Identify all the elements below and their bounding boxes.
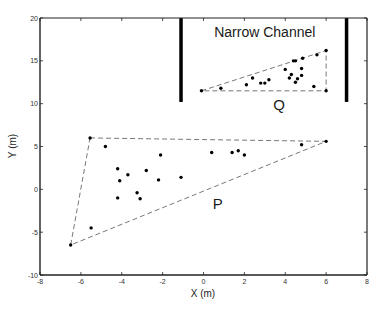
x-axis-label: X (m) xyxy=(191,288,215,299)
point-p xyxy=(159,153,162,156)
x-tick-label: 6 xyxy=(324,278,328,285)
data-points xyxy=(69,49,328,247)
point-p xyxy=(230,151,233,154)
point-q xyxy=(324,49,327,52)
axes xyxy=(40,18,367,275)
scatter-plot: -8-6-4-202468-10-505101520 X (m) Y (m) N… xyxy=(0,0,385,309)
point-p xyxy=(300,143,303,146)
point-q xyxy=(263,81,266,84)
point-q xyxy=(300,67,303,70)
point-q xyxy=(315,53,318,56)
point-q xyxy=(219,87,222,90)
y-tick-label: -10 xyxy=(28,272,38,279)
x-tick-label: 8 xyxy=(365,278,369,285)
annotation-q: Q xyxy=(273,96,285,113)
point-p xyxy=(116,196,119,199)
point-q xyxy=(290,73,293,76)
point-p xyxy=(126,173,129,176)
y-tick-label: 5 xyxy=(34,143,38,150)
y-tick-label: 15 xyxy=(30,57,38,64)
point-q xyxy=(288,76,291,79)
point-q xyxy=(245,83,248,86)
y-tick-label: -5 xyxy=(32,229,38,236)
hull-polygons xyxy=(71,51,326,245)
point-p xyxy=(116,167,119,170)
point-p xyxy=(243,153,246,156)
x-tick-label: -6 xyxy=(78,278,84,285)
y-axis-label: Y (m) xyxy=(7,134,18,158)
hull-q xyxy=(201,51,326,91)
hull-p xyxy=(71,138,326,245)
point-q xyxy=(296,77,299,80)
point-p xyxy=(237,149,240,152)
point-p xyxy=(89,226,92,229)
point-q xyxy=(200,89,203,92)
y-tick-label: 0 xyxy=(34,186,38,193)
x-tick-label: 4 xyxy=(283,278,287,285)
point-p xyxy=(88,136,91,139)
point-p xyxy=(135,191,138,194)
point-q xyxy=(324,89,327,92)
x-tick-label: -8 xyxy=(37,278,43,285)
annotation-p: P xyxy=(213,195,223,212)
point-q xyxy=(259,81,262,84)
point-p xyxy=(145,169,148,172)
point-p xyxy=(157,178,160,181)
point-q xyxy=(312,85,315,88)
point-q xyxy=(284,68,287,71)
point-q xyxy=(251,76,254,79)
x-tick-label: -4 xyxy=(119,278,125,285)
point-q xyxy=(301,57,304,60)
annotations: Narrow ChannelQP xyxy=(213,24,316,212)
point-p xyxy=(118,179,121,182)
point-q xyxy=(294,81,297,84)
point-p xyxy=(179,176,182,179)
x-tick-label: -2 xyxy=(160,278,166,285)
point-q xyxy=(294,59,297,62)
point-p xyxy=(69,243,72,246)
point-q xyxy=(300,74,303,77)
point-q xyxy=(267,78,270,81)
y-tick-label: 20 xyxy=(30,15,38,22)
point-p xyxy=(324,140,327,143)
point-p xyxy=(138,197,141,200)
annotation-narrow-channel: Narrow Channel xyxy=(214,24,315,40)
y-tick-label: 10 xyxy=(30,100,38,107)
x-tick-label: 0 xyxy=(202,278,206,285)
x-tick-label: 2 xyxy=(242,278,246,285)
point-p xyxy=(210,151,213,154)
point-p xyxy=(104,145,107,148)
